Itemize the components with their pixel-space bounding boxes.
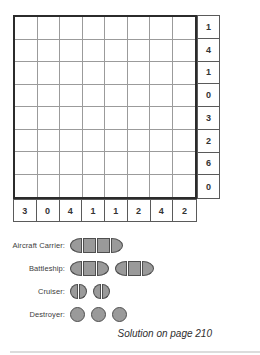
grid-cell[interactable] (83, 107, 106, 130)
grid-cell[interactable] (60, 40, 83, 63)
grid-cell[interactable] (150, 130, 173, 153)
grid-cell[interactable] (60, 107, 83, 130)
grid-cell[interactable] (128, 175, 151, 198)
grid-cell[interactable] (60, 175, 83, 198)
grid-cell[interactable] (38, 175, 61, 198)
fleet-ships (70, 284, 110, 299)
grid-cell[interactable] (105, 62, 128, 85)
ship-icon (70, 238, 123, 253)
grid-cell[interactable] (128, 17, 151, 40)
grid-cell[interactable] (150, 175, 173, 198)
row-clues: 14103260 (197, 15, 220, 199)
grid-cell[interactable] (128, 40, 151, 63)
ship-segment-mid-icon (128, 261, 141, 276)
fleet-row: Destroyer: (0, 307, 260, 322)
fleet-ships (70, 238, 123, 253)
grid-cell[interactable] (83, 17, 106, 40)
grid-cell[interactable] (105, 130, 128, 153)
grid-cell[interactable] (173, 175, 196, 198)
grid-cell[interactable] (38, 62, 61, 85)
grid-cell[interactable] (60, 130, 83, 153)
grid-cell[interactable] (150, 62, 173, 85)
row-clue: 0 (198, 84, 219, 107)
grid-cell[interactable] (83, 85, 106, 108)
grid-cell[interactable] (83, 62, 106, 85)
grid-cell[interactable] (60, 62, 83, 85)
grid-cell[interactable] (15, 152, 38, 175)
grid-cell[interactable] (15, 130, 38, 153)
column-clue: 1 (105, 200, 128, 221)
ship-segment-cap-right-icon (79, 284, 87, 299)
grid-cell[interactable] (15, 17, 38, 40)
grid-cell[interactable] (83, 130, 106, 153)
grid-cell[interactable] (15, 40, 38, 63)
ship-segment-mid-icon (83, 238, 96, 253)
grid-cell[interactable] (38, 130, 61, 153)
grid-cell[interactable] (38, 40, 61, 63)
fleet-ships (70, 307, 127, 322)
ship-segment-cap-left-icon (70, 238, 82, 253)
grid-cell[interactable] (60, 17, 83, 40)
grid-cell[interactable] (38, 152, 61, 175)
grid-cell[interactable] (128, 152, 151, 175)
grid-cell[interactable] (105, 40, 128, 63)
grid-cell[interactable] (173, 62, 196, 85)
ship-segment-cap-left-icon (93, 284, 101, 299)
grid-cell[interactable] (173, 152, 196, 175)
column-clue: 2 (128, 200, 151, 221)
grid-cell[interactable] (60, 152, 83, 175)
grid-cell[interactable] (173, 40, 196, 63)
grid-cell[interactable] (15, 62, 38, 85)
fleet-label: Cruiser: (0, 287, 70, 296)
grid-cell[interactable] (15, 175, 38, 198)
fleet-row: Battleship: (0, 261, 260, 276)
grid-cell[interactable] (128, 62, 151, 85)
ship-segment-cap-right-icon (111, 238, 123, 253)
grid-cell[interactable] (128, 85, 151, 108)
grid-cell[interactable] (150, 40, 173, 63)
ship-segment-cap-right-icon (102, 284, 110, 299)
grid-cell[interactable] (173, 107, 196, 130)
grid-cell[interactable] (150, 107, 173, 130)
ship-icon (70, 284, 87, 299)
row-clue: 6 (198, 153, 219, 176)
column-clue: 3 (14, 200, 37, 221)
ship-segment-cap-right-icon (142, 261, 154, 276)
grid-cell[interactable] (128, 130, 151, 153)
column-clue: 4 (151, 200, 174, 221)
grid-cell[interactable] (105, 175, 128, 198)
grid-cell[interactable] (15, 85, 38, 108)
grid-cell[interactable] (173, 130, 196, 153)
column-clue: 1 (82, 200, 105, 221)
grid-cell[interactable] (128, 107, 151, 130)
grid-cell[interactable] (60, 85, 83, 108)
grid-cell[interactable] (105, 17, 128, 40)
grid-cell[interactable] (173, 85, 196, 108)
grid-cell[interactable] (150, 152, 173, 175)
row-clue: 1 (198, 62, 219, 85)
grid-cell[interactable] (38, 85, 61, 108)
ship-segment-mid-icon (83, 261, 96, 276)
grid-cell[interactable] (83, 175, 106, 198)
ship-icon (115, 261, 154, 276)
ship-icon (112, 307, 127, 322)
ship-icon (70, 261, 109, 276)
row-clue: 2 (198, 130, 219, 153)
grid-cell[interactable] (83, 152, 106, 175)
grid-cell[interactable] (105, 85, 128, 108)
page-edge-shadow (10, 351, 260, 353)
fleet-label: Destroyer: (0, 310, 70, 319)
grid-cell[interactable] (83, 40, 106, 63)
row-clue: 4 (198, 39, 219, 62)
grid-cell[interactable] (15, 107, 38, 130)
grid-cell[interactable] (38, 107, 61, 130)
ship-icon (91, 307, 106, 322)
ship-segment-single-icon (112, 307, 127, 322)
column-clue: 2 (173, 200, 196, 221)
grid-cell[interactable] (150, 17, 173, 40)
grid-cell[interactable] (38, 17, 61, 40)
grid-cell[interactable] (105, 107, 128, 130)
grid-cell[interactable] (150, 85, 173, 108)
grid-cell[interactable] (105, 152, 128, 175)
grid-cell[interactable] (173, 17, 196, 40)
